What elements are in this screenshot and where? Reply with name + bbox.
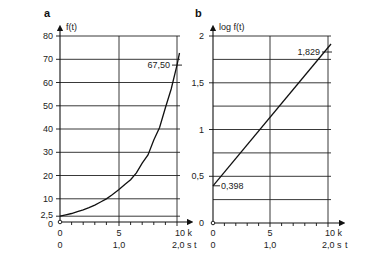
svg-text:60: 60 [43,78,53,88]
panel-a-label: a [44,7,51,19]
svg-text:0,5: 0,5 [191,171,204,181]
svg-text:70: 70 [43,54,53,64]
svg-text:0: 0 [199,218,204,228]
panel-b-yticks: 2 1,5 1 0,5 0 [191,31,204,228]
panel-b: b log f(t) [191,7,348,250]
svg-text:5: 5 [116,228,121,238]
panel-b-start-annotation: 0,398 [221,181,244,191]
panel-b-xticks: 0 5 10 k 0 1,0 2,0 s t [210,228,348,250]
panel-a-end-annotation: 67,50 [147,60,170,70]
panel-a-curve [60,53,180,216]
svg-text:10: 10 [43,194,53,204]
svg-text:0: 0 [57,240,62,250]
svg-text:2,0 s: 2,0 s [322,240,342,250]
svg-text:1,0: 1,0 [113,240,126,250]
svg-text:t: t [194,240,197,250]
svg-text:40: 40 [43,124,53,134]
svg-text:50: 50 [43,101,53,111]
panel-b-ylabel: log f(t) [219,22,245,32]
svg-text:30: 30 [43,147,53,157]
svg-text:0: 0 [48,219,53,229]
panel-b-grid [213,36,331,223]
svg-text:10 k: 10 k [175,228,193,238]
svg-text:1: 1 [199,125,204,135]
panel-b-label: b [195,7,202,19]
panel-a-xticks: 0 5 10 k 0 1,0 2,0 s t [57,228,197,250]
svg-text:2: 2 [199,31,204,41]
svg-text:0: 0 [210,228,215,238]
chart-figure: a f(t) [0,0,367,266]
svg-text:0: 0 [210,240,215,250]
svg-text:20: 20 [43,171,53,181]
panel-a-yticks: 80 70 60 50 40 30 20 10 2,5 0 [40,31,53,229]
panel-b-end-annotation: 1,829 [297,47,320,57]
svg-text:80: 80 [43,31,53,41]
svg-text:0: 0 [57,228,62,238]
svg-text:1,0: 1,0 [264,240,277,250]
svg-text:2,0 s: 2,0 s [172,240,192,250]
svg-text:1,5: 1,5 [191,78,204,88]
svg-text:5: 5 [267,228,272,238]
panel-b-line [213,44,331,186]
panel-a-ylabel: f(t) [66,22,77,32]
svg-text:t: t [345,240,348,250]
svg-text:10 k: 10 k [325,228,343,238]
panel-a: a f(t) [40,7,197,250]
